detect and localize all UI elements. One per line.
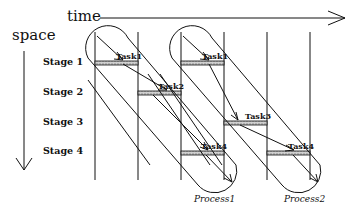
process2-task3-label: Task3 bbox=[245, 111, 271, 121]
space-time-diagram: time space Stage 1 Stage 2 Stage 3 Stage… bbox=[0, 0, 357, 217]
process1-task4-label: Task4 bbox=[201, 141, 227, 151]
process1-label: Process1 bbox=[194, 194, 235, 204]
process2-label: Process2 bbox=[284, 194, 325, 204]
stage-label-3: Stage 3 bbox=[43, 116, 83, 127]
stage-label-4: Stage 4 bbox=[43, 145, 83, 156]
stage-label-2: Stage 2 bbox=[43, 86, 83, 97]
space-axis-label: space bbox=[12, 26, 56, 44]
stage-label-1: Stage 1 bbox=[43, 56, 83, 67]
process1-task1-label: Task1 bbox=[116, 51, 142, 61]
process2-task1-label: Task1 bbox=[202, 51, 228, 61]
process2-task4-label: Task4 bbox=[288, 141, 314, 151]
process1-task2-label: Task2 bbox=[158, 81, 184, 91]
time-axis-arrow bbox=[100, 11, 345, 25]
space-axis-arrow bbox=[16, 51, 32, 170]
time-axis-label: time bbox=[67, 7, 101, 25]
process2-capsule bbox=[170, 26, 321, 193]
